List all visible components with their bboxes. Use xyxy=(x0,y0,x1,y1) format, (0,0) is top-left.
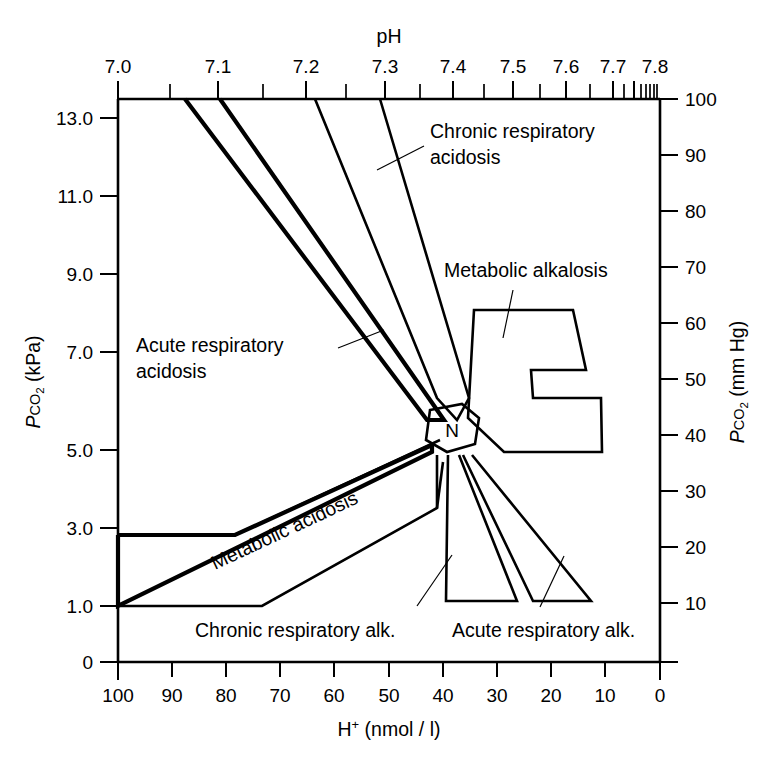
bottom-tick-label-60: 60 xyxy=(323,685,344,706)
right-tick-label-20: 20 xyxy=(685,537,706,558)
bottom-axis-title-h: H xyxy=(338,718,352,740)
acute-respiratory-alkalosis-wedge xyxy=(463,455,591,601)
top-tick-label-7.8: 7.8 xyxy=(642,56,668,77)
left-tick-label-13.0: 13.0 xyxy=(56,108,93,129)
left-tick-label-9.0: 9.0 xyxy=(67,264,93,285)
svg-text:PCO2 (kPa): PCO2 (kPa) xyxy=(22,335,46,428)
right-axis-ticks xyxy=(660,99,678,662)
left-axis-ticks xyxy=(100,118,118,662)
right-axis-title-sub-co: CO xyxy=(731,408,747,430)
bottom-tick-label-80: 80 xyxy=(215,685,236,706)
left-tick-label-0: 0 xyxy=(82,652,93,673)
left-axis-title: PCO2 (kPa) xyxy=(22,335,46,428)
region-normal: N xyxy=(426,404,479,452)
top-tick-label-7.1: 7.1 xyxy=(205,56,231,77)
top-tick-label-7.3: 7.3 xyxy=(372,56,398,77)
leader-metabolic-alkalosis xyxy=(503,290,513,338)
top-tick-label-7.2: 7.2 xyxy=(293,56,319,77)
left-tick-label-7.0: 7.0 xyxy=(67,342,93,363)
label-acute-respiratory-acidosis-line2: acidosis xyxy=(136,360,207,382)
left-tick-label-5.0: 5.0 xyxy=(67,440,93,461)
label-chronic-respiratory-acidosis-line1: Chronic respiratory xyxy=(430,120,595,142)
nomogram-svg: 7.0 7.1 7.2 7.3 7.4 7.5 7.6 7.7 7.8 pH 1… xyxy=(0,0,772,763)
top-tick-label-7.5: 7.5 xyxy=(500,56,526,77)
left-axis-title-sub-co: CO xyxy=(27,394,43,416)
left-axis-title-unit: (kPa) xyxy=(22,335,44,387)
right-tick-label-100: 100 xyxy=(685,89,717,110)
right-tick-label-60: 60 xyxy=(685,313,706,334)
label-metabolic-acidosis: Metabolic acidosis xyxy=(207,486,361,573)
region-chronic-respiratory-alkalosis xyxy=(446,455,517,601)
left-tick-label-3.0: 3.0 xyxy=(67,518,93,539)
bottom-tick-label-0: 0 xyxy=(655,685,666,706)
right-tick-label-30: 30 xyxy=(685,481,706,502)
right-axis-title-p: P xyxy=(726,430,748,443)
bottom-tick-label-30: 30 xyxy=(486,685,507,706)
top-axis-title: pH xyxy=(377,25,402,47)
normal-label: N xyxy=(445,420,459,441)
region-metabolic-alkalosis xyxy=(468,310,602,452)
top-tick-label-7.7: 7.7 xyxy=(600,56,626,77)
label-chronic-respiratory-acidosis-line2: acidosis xyxy=(430,146,501,168)
bottom-tick-label-50: 50 xyxy=(378,685,399,706)
left-tick-label-1.0: 1.0 xyxy=(67,596,93,617)
top-tick-label-7.6: 7.6 xyxy=(553,56,579,77)
region-acute-respiratory-acidosis xyxy=(185,99,444,420)
label-acute-respiratory-acidosis-line1: Acute respiratory xyxy=(136,334,284,356)
bottom-tick-label-90: 90 xyxy=(161,685,182,706)
chronic-respiratory-alkalosis-wedge xyxy=(446,455,517,601)
label-metabolic-alkalosis: Metabolic alkalosis xyxy=(444,259,608,281)
svg-text:PCO2 (mm Hg): PCO2 (mm Hg) xyxy=(726,321,750,443)
bottom-tick-label-100: 100 xyxy=(102,685,134,706)
right-tick-label-50: 50 xyxy=(685,369,706,390)
left-axis-tick-labels: 13.0 11.0 9.0 7.0 5.0 3.0 1.0 0 xyxy=(56,108,93,673)
bottom-tick-label-40: 40 xyxy=(432,685,453,706)
bottom-axis-tick-labels: 100 90 80 70 60 50 40 30 20 10 0 xyxy=(102,685,665,706)
right-axis-title: PCO2 (mm Hg) xyxy=(726,321,750,443)
leader-acute-respiratory-alkalosis xyxy=(540,556,564,607)
label-acute-respiratory-alkalosis: Acute respiratory alk. xyxy=(452,619,635,641)
acid-base-nomogram-figure: 7.0 7.1 7.2 7.3 7.4 7.5 7.6 7.7 7.8 pH 1… xyxy=(0,0,772,763)
bottom-tick-label-70: 70 xyxy=(269,685,290,706)
left-axis-title-p: P xyxy=(22,416,44,429)
bottom-tick-label-20: 20 xyxy=(540,685,561,706)
top-tick-label-7.0: 7.0 xyxy=(105,56,131,77)
right-tick-label-80: 80 xyxy=(685,201,706,222)
left-tick-label-11.0: 11.0 xyxy=(57,186,93,207)
bottom-axis-ticks xyxy=(118,662,660,680)
label-chronic-respiratory-alkalosis: Chronic respiratory alk. xyxy=(195,619,395,641)
right-axis-tick-labels: 100 90 80 70 60 50 40 30 20 10 xyxy=(685,89,717,614)
bottom-axis-title-unit: (nmol / l) xyxy=(359,718,440,740)
bottom-tick-label-10: 10 xyxy=(594,685,615,706)
right-tick-label-40: 40 xyxy=(685,425,706,446)
right-tick-label-70: 70 xyxy=(685,257,706,278)
top-tick-label-7.4: 7.4 xyxy=(440,56,467,77)
bottom-axis-title: H+ (nmol / l) xyxy=(338,717,441,740)
leader-lines xyxy=(338,146,564,607)
top-axis-tick-labels: 7.0 7.1 7.2 7.3 7.4 7.5 7.6 7.7 7.8 xyxy=(105,56,668,77)
right-tick-label-90: 90 xyxy=(685,145,706,166)
top-axis-ticks xyxy=(118,81,657,99)
right-tick-label-10: 10 xyxy=(685,593,706,614)
region-acute-respiratory-alkalosis xyxy=(463,455,591,601)
metabolic-alkalosis-region xyxy=(468,310,602,452)
bottom-axis-title-sup: + xyxy=(352,717,360,732)
acute-respiratory-acidosis-band xyxy=(185,99,444,420)
right-axis-title-unit: (mm Hg) xyxy=(726,321,748,402)
